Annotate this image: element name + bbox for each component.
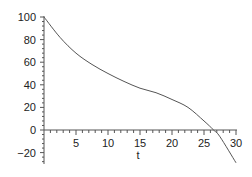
y-tick-label: 80	[24, 34, 36, 46]
x-axis-ticks: 51015202530	[50, 130, 242, 149]
line-chart: −20020406080100 51015202530 t	[0, 0, 252, 177]
y-tick-label: 0	[30, 124, 36, 136]
x-tick-label: 30	[230, 137, 242, 149]
x-tick-label: 5	[73, 137, 79, 149]
x-axis-label: t	[136, 149, 139, 161]
y-tick-label: 40	[24, 79, 36, 91]
x-tick-label: 25	[198, 137, 210, 149]
x-tick-label: 20	[166, 137, 178, 149]
y-tick-label: 60	[24, 56, 36, 68]
y-tick-label: −20	[17, 147, 36, 159]
y-axis-ticks: −20020406080100	[17, 11, 44, 162]
y-tick-label: 20	[24, 101, 36, 113]
x-tick-label: 15	[134, 137, 146, 149]
y-tick-label: 100	[18, 11, 36, 23]
x-tick-label: 10	[102, 137, 114, 149]
